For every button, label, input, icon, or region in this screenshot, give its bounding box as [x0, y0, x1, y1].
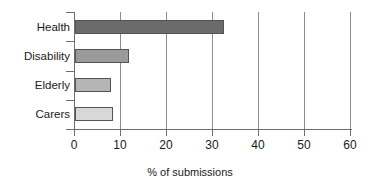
gridline-60: [350, 12, 351, 129]
x-axis-tick-label-10: 10: [100, 138, 140, 152]
y-axis-tick-3: [66, 100, 74, 101]
x-axis-tick-40: [258, 130, 259, 136]
category-label-disability: Disability: [0, 50, 70, 62]
x-axis-title: % of submissions: [0, 166, 380, 179]
x-axis-tick-30: [212, 130, 213, 136]
x-axis-tick-label-30: 30: [192, 138, 232, 152]
x-axis-tick-label-20: 20: [146, 138, 186, 152]
x-axis-tick-label-50: 50: [284, 138, 324, 152]
x-axis-tick-label-40: 40: [238, 138, 278, 152]
bar-chart: HealthDisabilityElderlyCarers 0102030405…: [0, 0, 380, 192]
gridline-50: [304, 12, 305, 129]
x-axis-tick-20: [166, 130, 167, 136]
bar-health: [75, 20, 224, 34]
y-axis-tick-0: [66, 12, 74, 13]
x-axis-spine: [66, 129, 352, 130]
bar-carers: [75, 107, 113, 121]
bar-elderly: [75, 78, 111, 92]
category-label-health: Health: [0, 21, 70, 33]
y-axis-tick-1: [66, 41, 74, 42]
category-label-carers: Carers: [0, 108, 70, 120]
x-axis-tick-0: [74, 130, 75, 136]
x-axis-tick-60: [350, 130, 351, 136]
gridline-40: [258, 12, 259, 129]
x-axis-tick-label-0: 0: [54, 138, 94, 152]
bar-disability: [75, 49, 129, 63]
x-axis-tick-10: [120, 130, 121, 136]
x-axis-tick-50: [304, 130, 305, 136]
y-axis-tick-2: [66, 71, 74, 72]
category-label-elderly: Elderly: [0, 79, 70, 91]
x-axis-tick-label-60: 60: [330, 138, 370, 152]
